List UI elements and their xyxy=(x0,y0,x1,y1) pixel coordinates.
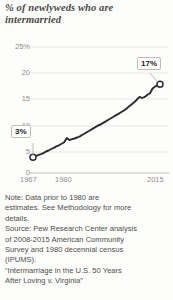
note-line-3: details. xyxy=(5,214,170,224)
chart-notes: Note: Data prior to 1980 are estimates. … xyxy=(5,193,170,287)
page-title: % of newlyweds who are intermarried xyxy=(5,2,165,25)
note-line-8: “Intermarriage in the U.S. 50 Years xyxy=(5,266,170,276)
x-tick-1980: 1980 xyxy=(55,175,72,184)
note-line-6: Survey and 1980 decennial census xyxy=(5,245,170,255)
note-line-2: estimates. See Methodology for more xyxy=(5,203,170,213)
x-axis: 1967 1980 2015 xyxy=(0,175,173,187)
callout-pointer-17 xyxy=(150,73,158,82)
note-line-9: After Loving v. Virginia” xyxy=(5,276,170,286)
note-line-7: (IPUMS). xyxy=(5,255,170,265)
note-line-5: of 2008-2015 American Community xyxy=(5,235,170,245)
note-line-4: Source: Pew Research Center analysis xyxy=(5,224,170,234)
marker-2015 xyxy=(157,81,163,87)
data-line xyxy=(33,84,160,157)
marker-1967 xyxy=(30,154,36,160)
chart-page: % of newlyweds who are intermarried 25% … xyxy=(0,0,173,300)
callout-3-percent: 3% xyxy=(11,125,31,138)
note-line-1: Note: Data prior to 1980 are xyxy=(5,193,170,203)
x-tick-2015: 2015 xyxy=(147,175,164,184)
callout-17-percent: 17% xyxy=(137,57,161,70)
x-tick-1967: 1967 xyxy=(20,175,37,184)
